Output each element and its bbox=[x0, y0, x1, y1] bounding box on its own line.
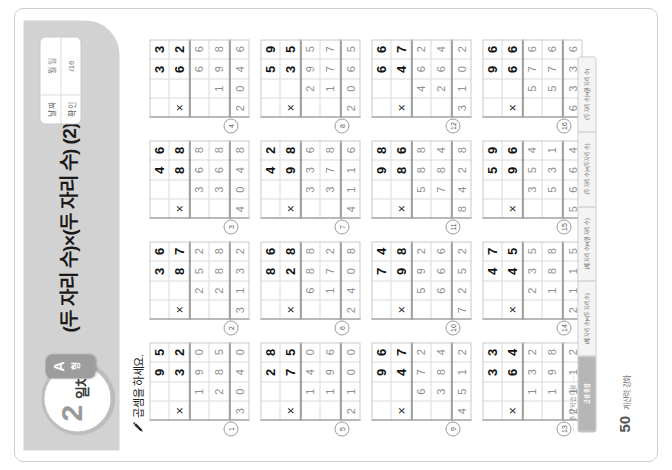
result-row-cell[interactable]: 5 bbox=[341, 40, 361, 60]
partial-product-1-row-cell[interactable]: 0 bbox=[190, 343, 210, 363]
result-row-cell[interactable]: 2 bbox=[230, 242, 250, 262]
partial-product-1-row-cell[interactable] bbox=[301, 300, 321, 320]
multiplicand-row-cell[interactable]: 2 bbox=[261, 141, 281, 161]
partial-product-2-row-cell[interactable] bbox=[543, 199, 563, 219]
multiplier-row-cell[interactable]: 9 bbox=[281, 160, 301, 180]
multiplier-row-cell[interactable]: 8 bbox=[170, 160, 190, 180]
multiplier-row-cell[interactable]: 7 bbox=[281, 362, 301, 382]
partial-product-2-row-cell[interactable]: 8 bbox=[210, 40, 230, 60]
curriculum-tab-5[interactable]: 곱셈 종합 bbox=[579, 357, 596, 432]
result-row-cell[interactable]: 2 bbox=[230, 98, 250, 118]
partial-product-1-row-cell[interactable]: 2 bbox=[523, 343, 543, 363]
partial-product-2-row-cell[interactable]: 9 bbox=[210, 59, 230, 79]
multiplier-row-cell[interactable]: 9 bbox=[503, 160, 523, 180]
multiplicand-row-cell[interactable] bbox=[261, 382, 281, 402]
partial-product-2-row-cell[interactable] bbox=[321, 401, 341, 421]
result-row-cell[interactable]: 4 bbox=[452, 180, 472, 200]
multiplier-row-cell[interactable] bbox=[281, 382, 301, 402]
partial-product-2-row-cell[interactable]: 7 bbox=[321, 40, 341, 60]
result-row-cell[interactable]: 6 bbox=[230, 40, 250, 60]
multiplicand-row-cell[interactable]: 4 bbox=[150, 160, 170, 180]
multiplier-row-cell[interactable]: 4 bbox=[503, 261, 523, 281]
partial-product-1-row-cell[interactable]: 2 bbox=[523, 281, 543, 301]
result-row-cell[interactable]: 4 bbox=[230, 362, 250, 382]
result-row-cell[interactable]: 2 bbox=[341, 300, 361, 320]
partial-product-2-row-cell[interactable]: 1 bbox=[543, 382, 563, 402]
multiplicand-row-cell[interactable]: 4 bbox=[261, 160, 281, 180]
partial-product-1-row-cell[interactable]: 8 bbox=[301, 242, 321, 262]
partial-product-2-row-cell[interactable]: 6 bbox=[432, 59, 452, 79]
partial-product-1-row-cell[interactable] bbox=[523, 199, 543, 219]
partial-product-1-row-cell[interactable] bbox=[190, 79, 210, 99]
multiplicand-row-cell[interactable]: 8 bbox=[261, 343, 281, 363]
partial-product-2-row-cell[interactable]: 6 bbox=[432, 281, 452, 301]
partial-product-1-row-cell[interactable]: 5 bbox=[412, 180, 432, 200]
calculation-grid[interactable]: 74985926667252× bbox=[372, 242, 472, 320]
multiplicand-row-cell[interactable] bbox=[483, 401, 503, 421]
multiplicand-row-cell[interactable] bbox=[261, 281, 281, 301]
multiplier-row-cell[interactable]: 2 bbox=[170, 343, 190, 363]
partial-product-2-row-cell[interactable]: 7 bbox=[321, 59, 341, 79]
calculation-grid[interactable]: 98865887848428× bbox=[372, 141, 472, 219]
multiplicand-row-cell[interactable] bbox=[372, 382, 392, 402]
multiplier-row-cell[interactable]: 4 bbox=[503, 343, 523, 363]
multiplicand-row-cell[interactable] bbox=[261, 199, 281, 219]
multiplier-row-cell[interactable]: 7 bbox=[392, 343, 412, 363]
partial-product-2-row-cell[interactable] bbox=[321, 98, 341, 118]
partial-product-2-row-cell[interactable]: 8 bbox=[432, 362, 452, 382]
partial-product-2-row-cell[interactable]: 9 bbox=[321, 362, 341, 382]
multiplier-row-cell[interactable]: 7 bbox=[392, 40, 412, 60]
partial-product-1-row-cell[interactable]: 8 bbox=[190, 141, 210, 161]
partial-product-1-row-cell[interactable]: 6 bbox=[190, 160, 210, 180]
partial-product-2-row-cell[interactable]: 3 bbox=[210, 180, 230, 200]
multiplicand-row-cell[interactable] bbox=[150, 300, 170, 320]
partial-product-1-row-cell[interactable]: 7 bbox=[412, 362, 432, 382]
partial-product-1-row-cell[interactable]: 6 bbox=[301, 141, 321, 161]
partial-product-1-row-cell[interactable] bbox=[412, 401, 432, 421]
partial-product-2-row-cell[interactable] bbox=[432, 98, 452, 118]
partial-product-1-row-cell[interactable] bbox=[523, 401, 543, 421]
multiplicand-row-cell[interactable] bbox=[150, 98, 170, 118]
multiplicand-row-cell[interactable]: 9 bbox=[261, 40, 281, 60]
score-value-check[interactable]: /16 bbox=[61, 38, 81, 96]
result-row-cell[interactable]: 0 bbox=[341, 362, 361, 382]
partial-product-2-row-cell[interactable]: 7 bbox=[321, 160, 341, 180]
partial-product-2-row-cell[interactable] bbox=[210, 199, 230, 219]
result-row-cell[interactable]: 5 bbox=[452, 261, 472, 281]
multiplicand-row-cell[interactable]: 5 bbox=[150, 343, 170, 363]
partial-product-1-row-cell[interactable]: 5 bbox=[412, 281, 432, 301]
result-row-cell[interactable]: 0 bbox=[341, 343, 361, 363]
multiplier-row-cell[interactable]: 8 bbox=[170, 141, 190, 161]
partial-product-1-row-cell[interactable]: 2 bbox=[412, 40, 432, 60]
partial-product-2-row-cell[interactable]: 3 bbox=[432, 382, 452, 402]
result-row-cell[interactable]: 5 bbox=[452, 382, 472, 402]
multiplier-row-cell[interactable] bbox=[170, 281, 190, 301]
partial-product-1-row-cell[interactable]: 5 bbox=[301, 40, 321, 60]
partial-product-1-row-cell[interactable]: 6 bbox=[301, 281, 321, 301]
partial-product-1-row-cell[interactable]: 9 bbox=[412, 261, 432, 281]
multiplier-row-cell[interactable]: 5 bbox=[281, 343, 301, 363]
partial-product-1-row-cell[interactable] bbox=[301, 98, 321, 118]
partial-product-1-row-cell[interactable]: 4 bbox=[523, 141, 543, 161]
partial-product-2-row-cell[interactable]: 4 bbox=[432, 141, 452, 161]
multiplier-row-cell[interactable]: 3 bbox=[170, 362, 190, 382]
partial-product-1-row-cell[interactable] bbox=[412, 199, 432, 219]
partial-product-2-row-cell[interactable]: 8 bbox=[543, 343, 563, 363]
partial-product-1-row-cell[interactable]: 3 bbox=[523, 180, 543, 200]
calculation-grid[interactable]: 42983363784116× bbox=[261, 141, 361, 219]
calculation-grid[interactable]: 59352951772065× bbox=[261, 40, 361, 118]
multiplier-row-cell[interactable] bbox=[281, 79, 301, 99]
multiplicand-row-cell[interactable] bbox=[261, 79, 281, 99]
partial-product-1-row-cell[interactable]: 1 bbox=[190, 382, 210, 402]
partial-product-1-row-cell[interactable]: 2 bbox=[190, 242, 210, 262]
partial-product-2-row-cell[interactable]: 7 bbox=[321, 261, 341, 281]
multiplier-row-cell[interactable] bbox=[281, 180, 301, 200]
partial-product-1-row-cell[interactable]: 8 bbox=[412, 160, 432, 180]
multiplicand-row-cell[interactable]: 9 bbox=[372, 362, 392, 382]
partial-product-1-row-cell[interactable] bbox=[301, 401, 321, 421]
partial-product-1-row-cell[interactable]: 5 bbox=[523, 79, 543, 99]
partial-product-1-row-cell[interactable]: 4 bbox=[301, 362, 321, 382]
multiplicand-row-cell[interactable]: 6 bbox=[372, 59, 392, 79]
partial-product-1-row-cell[interactable]: 3 bbox=[523, 261, 543, 281]
partial-product-2-row-cell[interactable]: 3 bbox=[543, 160, 563, 180]
